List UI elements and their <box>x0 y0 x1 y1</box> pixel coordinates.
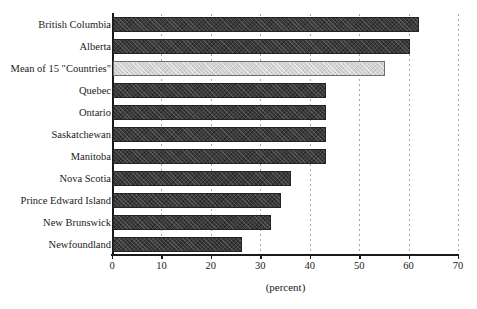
category-label: Manitoba <box>71 149 111 164</box>
category-label: Alberta <box>80 39 112 54</box>
bar <box>113 193 281 208</box>
x-tick-label-60: 60 <box>389 260 429 272</box>
bar-row: Mean of 15 "Countries" <box>0 58 477 80</box>
bar <box>113 215 271 230</box>
bar <box>113 39 410 54</box>
category-label: Nova Scotia <box>59 171 111 186</box>
bar <box>113 237 242 252</box>
category-label: Ontario <box>79 105 111 120</box>
bar-row: Newfoundland <box>0 234 477 256</box>
category-label: Mean of 15 "Countries" <box>11 61 111 76</box>
bar-row: Alberta <box>0 36 477 58</box>
x-tick-label-50: 50 <box>339 260 379 272</box>
category-label: New Brunswick <box>43 215 111 230</box>
bar <box>113 149 326 164</box>
bar-row: British Columbia <box>0 14 477 36</box>
bar-row: New Brunswick <box>0 212 477 234</box>
bar-row: Nova Scotia <box>0 168 477 190</box>
x-tick-label-40: 40 <box>290 260 330 272</box>
bar <box>113 105 326 120</box>
bar <box>113 83 326 98</box>
x-tick-label-20: 20 <box>191 260 231 272</box>
x-axis-title-label: (percent) <box>266 281 306 293</box>
bar <box>113 127 326 142</box>
bar <box>113 61 385 76</box>
category-label: Newfoundland <box>49 237 111 252</box>
bar-row: Saskatchewan <box>0 124 477 146</box>
x-tick-label-30: 30 <box>240 260 280 272</box>
bar-chart: 010203040506070 (percent) British Columb… <box>0 0 477 309</box>
category-label: Saskatchewan <box>52 127 111 142</box>
bar-row: Prince Edward Island <box>0 190 477 212</box>
bar-row: Ontario <box>0 102 477 124</box>
bar-row: Manitoba <box>0 146 477 168</box>
bar <box>113 171 291 186</box>
x-tick-label-70: 70 <box>438 260 477 272</box>
bar-row: Quebec <box>0 80 477 102</box>
category-label: Quebec <box>79 83 111 98</box>
bar <box>113 17 419 32</box>
category-label: British Columbia <box>38 17 111 32</box>
category-label: Prince Edward Island <box>21 193 111 208</box>
x-axis-title: (percent) <box>0 281 477 293</box>
x-tick-label-10: 10 <box>141 260 181 272</box>
x-tick-label-0: 0 <box>92 260 132 272</box>
